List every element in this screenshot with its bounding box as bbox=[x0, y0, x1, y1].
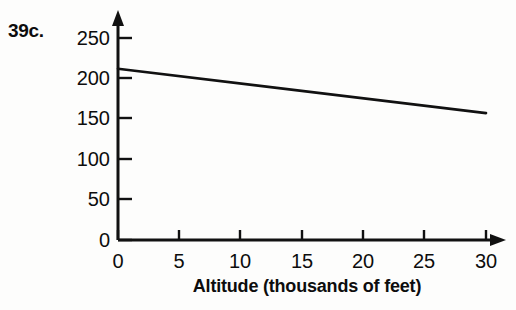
y-tick-label-0: 0 bbox=[99, 229, 110, 251]
y-axis-tick-labels: 0 50 100 150 200 250 bbox=[77, 27, 110, 251]
y-tick-label-50: 50 bbox=[88, 188, 110, 210]
line-chart: 0 50 100 150 200 250 0 5 10 15 20 25 30 bbox=[0, 0, 516, 310]
x-axis-tick-labels: 0 5 10 15 20 25 30 bbox=[112, 250, 497, 272]
x-tick-label-25: 25 bbox=[413, 250, 435, 272]
y-axis-arrowhead bbox=[112, 10, 124, 26]
x-tick-label-30: 30 bbox=[475, 250, 497, 272]
x-tick-label-10: 10 bbox=[229, 250, 251, 272]
data-series-line bbox=[118, 69, 486, 113]
x-axis-arrowhead bbox=[490, 234, 506, 246]
x-axis-title: Altitude (thousands of feet) bbox=[112, 276, 502, 297]
x-tick-label-0: 0 bbox=[112, 250, 123, 272]
y-tick-label-200: 200 bbox=[77, 67, 110, 89]
x-tick-label-15: 15 bbox=[291, 250, 313, 272]
x-axis-group bbox=[118, 234, 506, 246]
x-tick-label-5: 5 bbox=[173, 250, 184, 272]
y-tick-label-100: 100 bbox=[77, 148, 110, 170]
x-tick-label-20: 20 bbox=[352, 250, 374, 272]
figure-canvas: 39c. 0 50 bbox=[0, 0, 516, 310]
y-tick-label-150: 150 bbox=[77, 107, 110, 129]
y-axis-group bbox=[112, 10, 124, 240]
y-tick-label-250: 250 bbox=[77, 27, 110, 49]
